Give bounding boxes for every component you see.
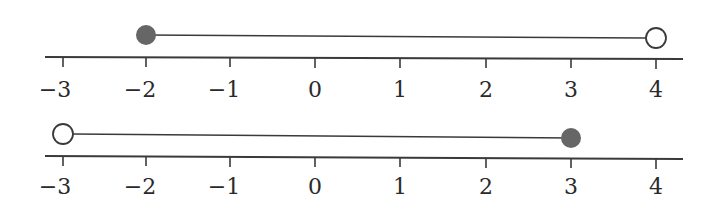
svg-text:−2: −2 [124,174,156,199]
svg-text:0: 0 [308,77,322,102]
interval-segment [146,35,646,38]
tick-labels: −3 −2 −1 0 1 2 3 4 [39,174,663,199]
number-line-1: −3 −2 −1 0 1 2 3 4 [39,25,683,102]
axis-line [45,156,683,159]
svg-text:1: 1 [393,77,407,102]
svg-text:3: 3 [564,77,578,102]
closed-endpoint-dot [561,128,581,148]
svg-text:−1: −1 [208,174,240,199]
closed-endpoint-dot [136,25,156,45]
svg-text:4: 4 [649,174,663,199]
number-line-2: −3 −2 −1 0 1 2 3 4 [39,124,683,199]
open-endpoint-circle [646,28,666,48]
svg-text:2: 2 [479,174,493,199]
axis-line [45,57,683,59]
svg-text:3: 3 [564,174,578,199]
svg-text:2: 2 [479,77,493,102]
interval-segment [73,134,571,138]
svg-text:−3: −3 [39,77,71,102]
svg-text:0: 0 [308,174,322,199]
svg-text:4: 4 [649,77,663,102]
svg-text:1: 1 [393,174,407,199]
tick-labels: −3 −2 −1 0 1 2 3 4 [39,77,663,102]
svg-text:−3: −3 [39,174,71,199]
number-lines-diagram: −3 −2 −1 0 1 2 3 4 −3 −2 −1 [0,0,705,212]
svg-text:−2: −2 [124,77,156,102]
svg-text:−1: −1 [208,77,240,102]
open-endpoint-circle [53,124,73,144]
